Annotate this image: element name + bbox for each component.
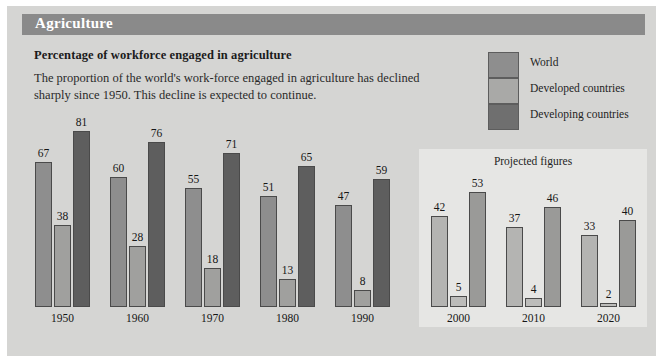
bar-value-label: 4 — [531, 283, 537, 295]
bar-1990-world: 47 — [335, 205, 352, 307]
bar-value-label: 51 — [263, 181, 275, 193]
x-axis-label-1960: 1960 — [126, 312, 149, 324]
bar-value-label: 81 — [76, 116, 88, 128]
bar-value-label: 42 — [434, 201, 446, 213]
bar-group-1970: 5518711970 — [185, 6, 240, 307]
bar-1960-developing-countries: 76 — [148, 142, 165, 307]
bar-value-label: 13 — [282, 264, 294, 276]
bar-2000-developed-countries: 5 — [450, 296, 467, 307]
bar-1980-developed-countries: 13 — [279, 279, 296, 307]
bar-group-1990: 478591990 — [335, 6, 390, 307]
bar-value-label: 38 — [57, 210, 69, 222]
bar-2000-world: 42 — [431, 216, 448, 307]
bar-2000-developing-countries: 53 — [469, 192, 486, 307]
bar-2010-developing-countries: 46 — [544, 207, 561, 307]
bar-value-label: 37 — [509, 212, 521, 224]
bar-1960-world: 60 — [110, 177, 127, 307]
bar-1970-developed-countries: 18 — [204, 268, 221, 307]
bar-1950-developed-countries: 38 — [54, 225, 71, 307]
bar-group-1960: 6028761960 — [110, 6, 165, 307]
bar-value-label: 8 — [360, 275, 366, 287]
bar-value-label: 65 — [301, 151, 313, 163]
x-axis-label-2010: 2010 — [522, 312, 545, 324]
x-axis-label-1970: 1970 — [201, 312, 224, 324]
bar-value-label: 28 — [132, 231, 144, 243]
bar-2020-world: 33 — [581, 235, 598, 307]
bar-value-label: 18 — [207, 253, 219, 265]
bar-1990-developing-countries: 59 — [373, 179, 390, 307]
bar-value-label: 76 — [151, 127, 163, 139]
bar-value-label: 67 — [38, 147, 50, 159]
bar-group-2020: 332402020 — [581, 6, 636, 307]
bar-2020-developing-countries: 40 — [619, 220, 636, 307]
content-panel: Agriculture Percentage of workforce enga… — [7, 6, 656, 356]
bar-1970-developing-countries: 71 — [223, 153, 240, 307]
bar-value-label: 33 — [584, 220, 596, 232]
bar-value-label: 59 — [376, 164, 388, 176]
bar-2010-world: 37 — [506, 227, 523, 307]
bar-value-label: 55 — [188, 173, 200, 185]
x-axis-label-1990: 1990 — [351, 312, 374, 324]
bar-group-1980: 5113651980 — [260, 6, 315, 307]
bar-value-label: 71 — [226, 138, 238, 150]
x-axis-label-2000: 2000 — [447, 312, 470, 324]
chart-page: Agriculture Percentage of workforce enga… — [0, 0, 663, 362]
bar-value-label: 47 — [338, 190, 350, 202]
bar-1990-developed-countries: 8 — [354, 290, 371, 307]
bar-value-label: 60 — [113, 162, 125, 174]
bar-1950-world: 67 — [35, 162, 52, 307]
bar-1980-developing-countries: 65 — [298, 166, 315, 307]
bar-group-2000: 425532000 — [431, 6, 486, 307]
bar-2020-developed-countries: 2 — [600, 303, 617, 307]
bar-1950-developing-countries: 81 — [73, 131, 90, 307]
bar-group-1950: 6738811950 — [35, 6, 90, 307]
x-axis-label-2020: 2020 — [597, 312, 620, 324]
bar-1980-world: 51 — [260, 196, 277, 307]
bar-1970-world: 55 — [185, 188, 202, 307]
bar-value-label: 53 — [472, 177, 484, 189]
bar-2010-developed-countries: 4 — [525, 298, 542, 307]
bar-1960-developed-countries: 28 — [129, 246, 146, 307]
bar-value-label: 46 — [547, 192, 559, 204]
bar-value-label: 40 — [622, 205, 634, 217]
x-axis-label-1980: 1980 — [276, 312, 299, 324]
bar-chart-plot-area: 6738811950602876196055187119705113651980… — [7, 6, 656, 356]
bar-value-label: 2 — [606, 288, 612, 300]
bar-value-label: 5 — [456, 281, 462, 293]
bar-group-2010: 374462010 — [506, 6, 561, 307]
x-axis-label-1950: 1950 — [51, 312, 74, 324]
